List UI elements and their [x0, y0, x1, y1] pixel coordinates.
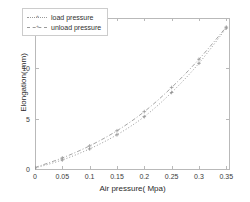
x-tick-label: 0.15 — [110, 173, 124, 180]
data-point-marker — [142, 110, 146, 114]
x-tick-label: 0.05 — [56, 173, 70, 180]
legend-item-unload-pressure: + unload pressure — [27, 22, 101, 32]
data-point-marker — [88, 144, 92, 148]
chart-legend: + load pressure + unload pressure — [22, 8, 108, 36]
y-axis-label: Elongation( mm) — [19, 28, 28, 138]
legend-marker-load-pressure-icon: + — [27, 13, 47, 21]
x-axis-label: Air pressure( Mpa) — [35, 184, 230, 193]
legend-label-load-pressure: load pressure — [51, 14, 93, 21]
data-point-marker — [61, 156, 65, 160]
series-line-unload-pressure — [35, 27, 226, 167]
x-tick-label: 0.1 — [85, 173, 95, 180]
data-point-marker — [170, 86, 174, 90]
chart-figure: 00.050.10.150.20.250.30.35 051015 + load… — [0, 0, 250, 202]
legend-marker-unload-pressure-icon: + — [27, 23, 47, 31]
plot-area: 00.050.10.150.20.250.30.35 051015 — [35, 18, 230, 170]
x-tick-label: 0.35 — [219, 173, 233, 180]
x-tick-label: 0.25 — [165, 173, 179, 180]
data-point-marker — [197, 62, 201, 66]
series-line-load-pressure — [35, 28, 226, 168]
x-tick-label: 0.2 — [139, 173, 149, 180]
y-tick-label: 0 — [26, 166, 30, 173]
legend-item-load-pressure: + load pressure — [27, 12, 101, 22]
data-series-layer — [35, 18, 230, 170]
x-tick-label: 0.3 — [194, 173, 204, 180]
data-point-marker — [35, 166, 37, 170]
legend-label-unload-pressure: unload pressure — [51, 24, 101, 31]
x-tick-label: 0 — [33, 173, 37, 180]
